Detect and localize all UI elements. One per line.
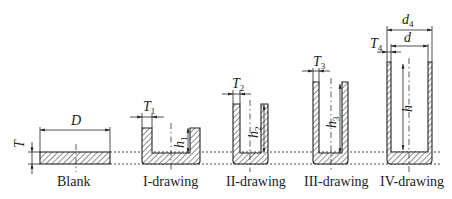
- stage3-drawing: T3 h3 III-drawing: [302, 54, 369, 189]
- stage4-cup: [387, 62, 432, 164]
- stage2-thickness-label: T2: [232, 76, 244, 93]
- stage4-inner-diameter-label: d: [404, 30, 412, 45]
- stage2-label: II-drawing: [226, 174, 286, 189]
- stage4-height-label: h: [400, 105, 415, 112]
- blank-thickness-label: T: [12, 139, 27, 148]
- stage1-thickness-label: T1: [143, 99, 155, 116]
- stage3-height-label: h3: [324, 116, 341, 128]
- deep-drawing-diagram: D T Blank T1 h1 I-drawing T2: [0, 0, 452, 199]
- stage3-thickness-label: T3: [313, 54, 326, 71]
- stage1-height-label: h1: [172, 137, 189, 149]
- stage4-drawing: d4 d T4 h IV-drawing: [370, 12, 444, 189]
- stage2-drawing: T2 h2 II-drawing: [222, 76, 286, 189]
- blank-diameter-label: D: [70, 113, 81, 128]
- stage4-label: IV-drawing: [380, 174, 444, 189]
- stage4-thickness-label: T4: [370, 36, 383, 53]
- stage3-label: III-drawing: [304, 174, 369, 189]
- blank-plate: [40, 152, 110, 164]
- stage4-outer-diameter-label: d4: [402, 12, 414, 29]
- stage1-label: I-drawing: [143, 174, 198, 189]
- blank-label: Blank: [57, 174, 90, 189]
- stage1-drawing: T1 h1 I-drawing: [130, 99, 200, 189]
- stage2-height-label: h2: [246, 127, 263, 139]
- blank-stage: D T Blank: [12, 113, 110, 189]
